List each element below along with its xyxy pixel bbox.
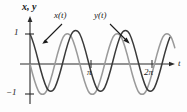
t-axis-label: t — [178, 58, 181, 68]
x-tick-label-pi: π — [87, 67, 92, 77]
y-tick-label-minus-one: −1 — [6, 87, 17, 97]
t-axis-arrowhead — [169, 62, 175, 67]
y-tick-label-one: 1 — [14, 27, 19, 37]
x-tick-label-2pi: 2π — [144, 67, 153, 77]
annotation-arrow-y — [110, 24, 130, 44]
annotation-arrow-x — [42, 24, 62, 44]
curve-label-x: x(t) — [54, 10, 67, 20]
curve-label-y: y(t) — [94, 10, 107, 20]
y-axis-arrowhead — [28, 16, 33, 22]
axis-title-xy: x, y — [22, 1, 36, 12]
figure-sine-cosine-plot: x, y x(t) y(t) 1 −1 π 2π t — [0, 0, 187, 112]
